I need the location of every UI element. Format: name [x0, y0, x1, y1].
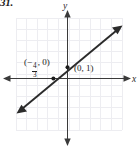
x-intercept-dot — [51, 77, 55, 81]
y-intercept-label: (0, 1) — [74, 64, 94, 73]
fraction-four-thirds: 43 — [32, 63, 37, 79]
x-intercept-suffix: , 0) — [38, 57, 50, 67]
coordinate-plane-plot: y x — [0, 0, 138, 146]
x-intercept-prefix: (− — [24, 57, 32, 67]
graph-figure: 31. — [0, 0, 138, 146]
fraction-denominator: 3 — [33, 72, 38, 79]
x-axis-label: x — [131, 74, 137, 84]
fraction-numerator: 4 — [33, 63, 38, 70]
x-intercept-label: (−43, 0) — [24, 58, 50, 80]
y-intercept-dot — [66, 65, 70, 69]
y-axis-label: y — [62, 1, 68, 11]
